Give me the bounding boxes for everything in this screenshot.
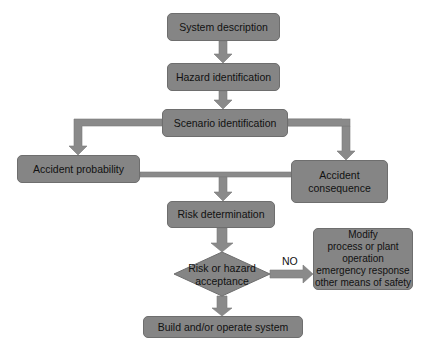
flowchart-canvas: System description Hazard identification… — [0, 0, 429, 350]
node-label-line: Accident — [319, 169, 359, 181]
decision-label: Risk or hazard acceptance — [182, 262, 262, 287]
node-label: Build and/or operate system — [158, 321, 289, 333]
arrow-system-to-hazard — [214, 41, 232, 63]
node-accident-probability: Accident probability — [17, 155, 140, 183]
node-label-line: operation — [342, 253, 384, 265]
node-label-line: consequence — [308, 182, 370, 194]
decision-label-line: acceptance — [182, 275, 262, 288]
no-label-text: NO — [282, 255, 298, 267]
node-accident-consequence: Accident consequence — [291, 160, 388, 203]
decision-label-line: Risk or hazard — [182, 262, 262, 275]
node-label: System description — [179, 21, 268, 33]
node-label-line: Modify — [348, 229, 377, 241]
edge-label-no: NO — [282, 255, 298, 267]
arrow-hazard-to-scenario — [214, 91, 232, 109]
arrow-acceptance-to-build — [212, 296, 232, 316]
node-risk-determination: Risk determination — [167, 201, 275, 228]
node-hazard-identification: Hazard identification — [167, 63, 280, 91]
node-label: Risk determination — [178, 208, 265, 220]
arrow-risk-to-acceptance — [211, 228, 233, 252]
node-label: Accident probability — [33, 163, 124, 175]
arrow-acceptance-to-modify — [270, 265, 313, 283]
connector-scenario-right — [288, 119, 350, 126]
connector-probability-consequence — [140, 172, 291, 177]
node-label-line: process or plant — [327, 241, 398, 253]
node-label-line: other means of safety — [315, 277, 411, 289]
node-label-line: emergency response — [316, 265, 409, 277]
node-label: Hazard identification — [176, 71, 271, 83]
arrow-to-risk-determination — [214, 177, 232, 201]
node-modify: Modify process or plant operation emerge… — [313, 228, 413, 290]
node-label: Scenario identification — [174, 117, 277, 129]
arrow-scenario-to-probability — [69, 119, 162, 155]
node-build-operate: Build and/or operate system — [143, 316, 303, 338]
node-system-description: System description — [167, 13, 280, 41]
node-scenario-identification: Scenario identification — [162, 109, 288, 137]
